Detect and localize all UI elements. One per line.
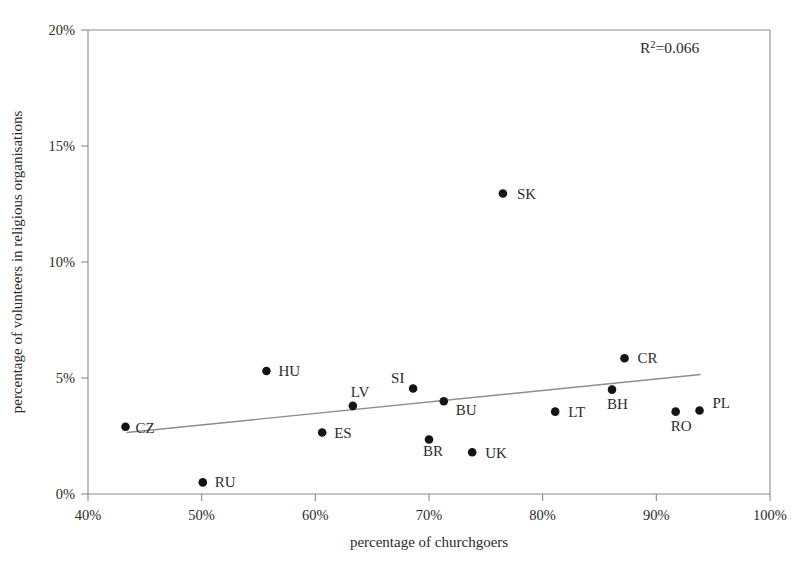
x-tick-label: 80% bbox=[529, 507, 556, 523]
x-tick-label: 40% bbox=[75, 507, 102, 523]
r-squared-value: =0.066 bbox=[656, 39, 700, 56]
data-point-uk bbox=[468, 448, 477, 457]
data-point-pl bbox=[695, 406, 704, 415]
point-label-br: BR bbox=[423, 443, 443, 459]
data-point-ru bbox=[199, 478, 208, 487]
point-label-pl: PL bbox=[713, 395, 731, 411]
y-tick-label: 10% bbox=[48, 254, 75, 270]
point-label-cr: CR bbox=[638, 350, 658, 366]
data-points-group: CZRUHUESLVSIBRBUUKSKLTBHCRROPL bbox=[121, 186, 730, 491]
y-tick-label: 0% bbox=[56, 486, 75, 502]
data-point-sk bbox=[499, 189, 508, 198]
point-label-uk: UK bbox=[485, 445, 507, 461]
point-label-lt: LT bbox=[568, 404, 585, 420]
x-tick-label: 90% bbox=[643, 507, 670, 523]
data-point-lt bbox=[551, 407, 560, 416]
data-point-ro bbox=[671, 407, 680, 416]
plot-frame bbox=[88, 30, 770, 494]
point-label-ru: RU bbox=[215, 474, 236, 490]
data-point-lv bbox=[349, 402, 358, 411]
scatter-plot: 0%5%10%15%20% 40%50%60%70%80%90%100% CZR… bbox=[0, 0, 800, 566]
y-axis-ticks: 0%5%10%15%20% bbox=[48, 22, 88, 502]
point-label-bh: BH bbox=[607, 396, 628, 412]
data-point-bu bbox=[439, 397, 448, 406]
data-point-bh bbox=[608, 385, 617, 394]
r-squared-prefix: R bbox=[640, 39, 651, 56]
x-tick-label: 60% bbox=[302, 507, 329, 523]
point-label-ro: RO bbox=[671, 418, 692, 434]
point-label-hu: HU bbox=[278, 363, 300, 379]
point-label-cz: CZ bbox=[136, 420, 155, 436]
y-axis-title: percentage of volunteers in religious or… bbox=[9, 111, 25, 414]
data-point-es bbox=[318, 428, 327, 437]
point-label-bu: BU bbox=[456, 402, 477, 418]
x-axis-ticks: 40%50%60%70%80%90%100% bbox=[75, 494, 787, 523]
point-label-sk: SK bbox=[517, 186, 536, 202]
r-squared-annotation: R2=0.066 bbox=[640, 39, 699, 56]
y-tick-label: 5% bbox=[56, 370, 75, 386]
x-tick-label: 70% bbox=[416, 507, 443, 523]
data-point-hu bbox=[262, 367, 271, 376]
chart-container: 0%5%10%15%20% 40%50%60%70%80%90%100% CZR… bbox=[0, 0, 800, 566]
x-axis-title: percentage of churchgoers bbox=[350, 534, 508, 550]
point-label-lv: LV bbox=[351, 384, 370, 400]
point-label-si: SI bbox=[391, 370, 404, 386]
data-point-cr bbox=[620, 354, 629, 363]
point-label-es: ES bbox=[334, 425, 352, 441]
y-tick-label: 20% bbox=[48, 22, 75, 38]
data-point-si bbox=[409, 384, 418, 393]
data-point-cz bbox=[121, 422, 130, 431]
x-tick-label: 50% bbox=[188, 507, 215, 523]
y-tick-label: 15% bbox=[48, 138, 75, 154]
x-tick-label: 100% bbox=[753, 507, 787, 523]
